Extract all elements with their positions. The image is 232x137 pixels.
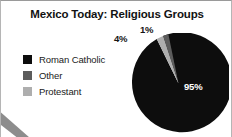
legend-label-other: Other <box>39 70 62 81</box>
chart-figure: Mexico Today: Religious Groups Roman Cat… <box>0 0 232 137</box>
legend-label-protestant: Protestant <box>39 86 81 97</box>
pie-chart-svg <box>128 33 229 134</box>
corner-wedge-decoration <box>0 105 37 137</box>
legend-label-roman-catholic: Roman Catholic <box>39 54 105 65</box>
pie-slice-roman-catholic <box>132 33 229 132</box>
legend-swatch-other <box>23 71 32 80</box>
legend-swatch-protestant <box>23 87 32 96</box>
legend-item-protestant: Protestant <box>23 83 128 99</box>
pie-chart <box>128 33 229 134</box>
pie-value-label-protestant: 4% <box>114 33 127 44</box>
legend-item-roman-catholic: Roman Catholic <box>23 51 128 67</box>
chart-legend: Roman Catholic Other Protestant <box>23 51 128 99</box>
pie-value-label-other: 1% <box>140 24 153 35</box>
page-title: Mexico Today: Religious Groups <box>1 8 232 20</box>
legend-item-other: Other <box>23 67 128 83</box>
pie-value-label-roman-catholic: 95% <box>184 81 202 92</box>
legend-swatch-roman-catholic <box>23 55 32 64</box>
